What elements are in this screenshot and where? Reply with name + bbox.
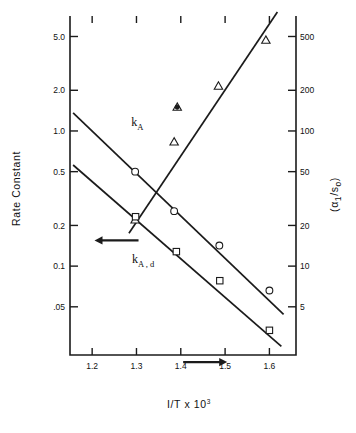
y-tick-label-left: .05 bbox=[53, 302, 65, 312]
fit-line-alpha1/s0 bbox=[129, 12, 277, 233]
marker-dot bbox=[175, 105, 179, 109]
marker-circle bbox=[266, 287, 273, 294]
y-tick-label-left: 0.1 bbox=[53, 261, 65, 271]
x-tick-label: 1.3 bbox=[131, 361, 143, 371]
y-axis-title-left: Rate Constant bbox=[10, 151, 22, 226]
curve-label-k_A: kA bbox=[131, 115, 144, 132]
marker-circle bbox=[132, 168, 139, 175]
y-tick-label-left: 2.0 bbox=[53, 85, 65, 95]
y-tick-label-right: 100 bbox=[300, 126, 314, 136]
axes-frame bbox=[70, 16, 296, 355]
x-tick-label: 1.2 bbox=[86, 361, 98, 371]
arrow-left-head-icon bbox=[95, 236, 103, 244]
y-tick-label-right: 5 bbox=[300, 302, 305, 312]
y-tick-label-right: 50 bbox=[300, 167, 310, 177]
y-tick-label-right: 200 bbox=[300, 85, 314, 95]
y-tick-label-right: 20 bbox=[300, 221, 310, 231]
y-tick-label-left: 0.2 bbox=[53, 221, 65, 231]
x-axis-title: I/T x 103 bbox=[167, 398, 211, 410]
marker-triangle bbox=[214, 82, 222, 89]
marker-square bbox=[132, 214, 138, 220]
arrhenius-plot: 1.21.31.41.51.65.02.01.00.50.20.1.055002… bbox=[0, 0, 356, 433]
x-tick-label: 1.6 bbox=[263, 361, 275, 371]
y-tick-label-right: 10 bbox=[300, 261, 310, 271]
marker-square bbox=[217, 278, 223, 284]
marker-circle bbox=[216, 242, 223, 249]
y-tick-label-left: 5.0 bbox=[53, 32, 65, 42]
y-tick-label-right: 500 bbox=[300, 32, 314, 42]
fit-line-k_A,d bbox=[73, 165, 281, 346]
marker-square bbox=[173, 248, 179, 254]
marker-square bbox=[266, 327, 272, 333]
y-axis-title-right: (α1/so) bbox=[328, 177, 343, 212]
marker-circle bbox=[171, 208, 178, 215]
fit-line-k_A bbox=[73, 113, 283, 314]
marker-triangle bbox=[262, 36, 270, 43]
y-tick-label-left: 1.0 bbox=[53, 126, 65, 136]
y-tick-label-left: 0.5 bbox=[53, 167, 65, 177]
curve-label-k_A,d: kA , d bbox=[132, 252, 155, 269]
chart-figure: 1.21.31.41.51.65.02.01.00.50.20.1.055002… bbox=[0, 0, 356, 433]
marker-triangle bbox=[170, 138, 178, 145]
